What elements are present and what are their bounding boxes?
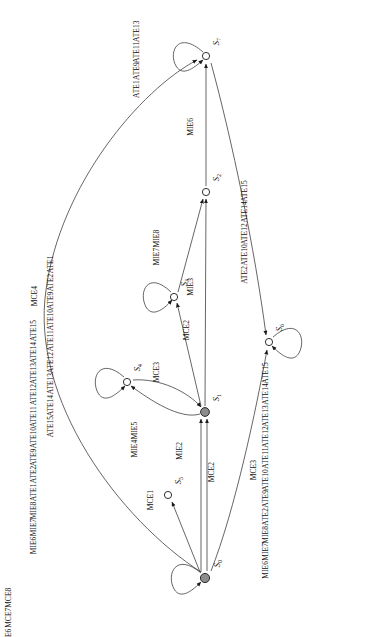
event-label: ATE1 — [133, 80, 141, 98]
event-label: ATE9 — [133, 63, 141, 81]
event-label: ATE12 — [240, 223, 249, 245]
edge-s0-s7 — [44, 60, 201, 572]
edge-s1-s2 — [205, 199, 206, 406]
self-loop-events-s6: MIE6MIE7MIE8ATE2ATE9ATE10ATE11ATE12ATE13… — [262, 362, 270, 579]
event-label: ATE9 — [30, 448, 38, 466]
node-label-s2: S2 — [211, 174, 222, 181]
event-label: ATE9 — [262, 490, 270, 508]
self-loop-events-s0: MIE2MIE3MIE4MIE6MIE7MIE8MIE5ATE1ATE2ATE9… — [5, 588, 13, 637]
node-label-s0: S0 — [212, 560, 223, 567]
event-label: ATE11 — [30, 406, 38, 427]
self-loop-events-s4: MIE6MIE7MIE8ATE1ATE2ATE9ATE10ATE11ATE12A… — [30, 320, 38, 554]
edge-label-mce2-s0-s1: MCE2 — [207, 462, 216, 482]
event-label: ATE1 — [30, 484, 38, 502]
edge-label-mie2: MIE2 — [175, 442, 184, 460]
event-label: ATE10 — [30, 427, 38, 448]
edge-s1-s4 — [131, 386, 200, 415]
edge-label-mce4: MCE4 — [30, 286, 39, 306]
self-loop-events-s3: ATE15ATE14ATE13ATE12ATE11ATE10ATE9ATE2AT… — [47, 256, 55, 437]
edge-label-mce2-s1-s3: MCE2 — [182, 320, 191, 340]
event-label: MCE8 — [5, 588, 13, 608]
edge-s7-s6 — [211, 63, 266, 335]
event-label: ATE14 — [262, 383, 270, 404]
node-label-s5: S5 — [173, 477, 184, 484]
edge-label-ate-s7-s6: ATE2ATE10ATE12ATE14ATE15 — [240, 180, 249, 284]
event-label: ATE14 — [240, 202, 249, 224]
edge-label-mce3-s0-s6: MCE3 — [249, 460, 258, 480]
edge-label-mce3-s4-s1: MCE3 — [152, 362, 161, 382]
node-s0[interactable] — [200, 573, 209, 582]
event-label: ATE12 — [262, 426, 270, 447]
event-label: ATE10 — [240, 245, 249, 267]
event-label: ATE15 — [30, 320, 38, 341]
node-label-s7: S7 — [211, 38, 222, 45]
event-label: ATE11 — [133, 41, 141, 62]
event-label: MIE6 — [30, 537, 38, 555]
event-label: MIE8 — [30, 501, 38, 519]
event-label: MCE6 — [5, 628, 13, 637]
event-label: ATE14 — [47, 394, 55, 415]
self-loop-events-s7: ATE1ATE9ATE11ATE13 — [133, 20, 141, 98]
event-label: ATE13 — [133, 20, 141, 41]
event-label: MIE6 — [262, 561, 270, 579]
event-label: ATE2 — [30, 466, 38, 484]
state-graph-svg — [0, 0, 390, 637]
event-label: ATE15 — [262, 362, 270, 383]
node-label-s1: S1 — [211, 394, 222, 401]
self-loop-s7 — [173, 43, 203, 71]
event-label: ATE13 — [47, 373, 55, 394]
diagram-canvas: S7 S2 S3 S4 S6 S5 S1 S0 ATE1ATE9ATE11ATE… — [0, 0, 390, 637]
node-s3[interactable] — [170, 293, 177, 300]
event-label: ATE2 — [240, 266, 249, 284]
event-label: ATE12 — [47, 352, 55, 373]
self-loop-s4 — [95, 368, 125, 398]
event-label: MIE8 — [262, 526, 270, 544]
edge-s4-s1 — [133, 380, 201, 407]
event-label: ATE15 — [47, 416, 55, 437]
edge-label-mie7-mie8: MIE7MIE8 — [152, 230, 161, 265]
event-label: ATE13 — [30, 363, 38, 384]
edge-s1-s3 — [177, 303, 201, 406]
event-label: MIE7 — [152, 248, 161, 266]
event-label: MIE5 — [130, 422, 139, 440]
event-label: MCE7 — [5, 608, 13, 628]
node-s6[interactable] — [265, 338, 272, 345]
event-label: ATE13 — [262, 405, 270, 426]
node-s1[interactable] — [201, 408, 210, 417]
edge-label-mie6: MIE6 — [186, 118, 195, 136]
event-label: ATE12 — [30, 384, 38, 405]
node-s7[interactable] — [202, 52, 209, 59]
event-label: MIE8 — [152, 230, 161, 248]
event-label: MIE4 — [130, 440, 139, 458]
event-label: ATE1 — [47, 256, 55, 274]
event-label: ATE11 — [47, 330, 55, 351]
node-s4[interactable] — [123, 378, 130, 385]
event-label: ATE14 — [30, 341, 38, 362]
edge-s0-s6 — [211, 350, 267, 571]
node-label-s6: S6 — [274, 324, 285, 331]
event-label: ATE10 — [262, 469, 270, 490]
event-label: MIE7 — [30, 519, 38, 537]
event-label: ATE15 — [240, 180, 249, 202]
event-label: ATE11 — [262, 448, 270, 469]
edge-label-mie3: MIE3 — [186, 278, 195, 296]
node-s2[interactable] — [202, 188, 209, 195]
self-loop-s3 — [143, 283, 172, 312]
event-label: MIE7 — [262, 543, 270, 561]
edge-label-mie4-mie5: MIE4MIE5 — [130, 422, 139, 457]
event-label: ATE10 — [47, 309, 55, 330]
event-label: ATE9 — [47, 291, 55, 309]
self-loop-s6 — [272, 328, 302, 358]
event-label: ATE2 — [47, 274, 55, 292]
node-label-s4: S4 — [132, 364, 143, 371]
event-label: ATE2 — [262, 508, 270, 526]
node-s5[interactable] — [164, 491, 171, 498]
edge-label-mce1: MCE1 — [146, 490, 155, 510]
